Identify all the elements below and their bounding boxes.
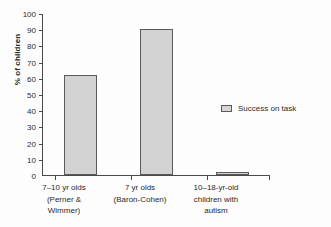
y-tick-mark-70 (39, 63, 42, 64)
x-tick-mark-3 (207, 176, 208, 180)
legend: Success on task (221, 104, 296, 113)
x-label-line: 7 yr olds (98, 182, 182, 194)
y-axis-line (42, 14, 43, 176)
x-label-category-2: 7 yr olds (Baron-Cohen) (98, 182, 182, 205)
x-tick-mark-1 (55, 176, 56, 180)
y-tick-mark-30 (39, 127, 42, 128)
x-label-line: 10–18-yr-old (174, 182, 258, 194)
y-tick-label-50: 50 (9, 91, 36, 100)
y-tick-label-60: 60 (9, 74, 36, 83)
y-tick-mark-10 (39, 160, 42, 161)
x-label-line: children with (174, 194, 258, 206)
x-axis-line (42, 175, 270, 176)
x-label-category-3: 10–18-yr-old children with autism (174, 182, 258, 217)
y-tick-label-40: 40 (9, 107, 36, 116)
y-tick-label-100: 100 (9, 10, 36, 19)
x-label-line: autism (174, 205, 258, 217)
y-tick-label-90: 90 (9, 26, 36, 35)
x-label-line: (Baron-Cohen) (98, 194, 182, 206)
x-label-line: (Perner & (22, 194, 106, 206)
bar-category-1[interactable] (64, 75, 97, 175)
y-tick-mark-60 (39, 79, 42, 80)
bar-category-3[interactable] (216, 172, 249, 175)
y-tick-mark-50 (39, 95, 42, 96)
legend-label-success-on-task: Success on task (238, 104, 296, 113)
x-tick-mark-4 (269, 176, 270, 180)
y-tick-label-70: 70 (9, 58, 36, 67)
y-tick-label-0: 0 (9, 172, 36, 181)
y-tick-label-10: 10 (9, 155, 36, 164)
y-tick-mark-20 (39, 144, 42, 145)
y-tick-mark-40 (39, 111, 42, 112)
x-label-line: Wimmer) (22, 205, 106, 217)
bar-category-2[interactable] (140, 29, 173, 175)
x-label-line: 7–10 yr olds (22, 182, 106, 194)
y-tick-mark-90 (39, 30, 42, 31)
y-tick-mark-100 (39, 14, 42, 15)
bar-chart: % of children 100 90 80 70 60 50 40 30 2… (0, 0, 331, 227)
plot-area: 100 90 80 70 60 50 40 30 20 10 0 (42, 14, 270, 176)
y-tick-label-80: 80 (9, 42, 36, 51)
y-tick-label-30: 30 (9, 123, 36, 132)
y-tick-label-20: 20 (9, 139, 36, 148)
x-tick-mark-2 (131, 176, 132, 180)
x-label-category-1: 7–10 yr olds (Perner & Wimmer) (22, 182, 106, 217)
y-tick-mark-80 (39, 46, 42, 47)
legend-swatch-icon (221, 105, 232, 112)
